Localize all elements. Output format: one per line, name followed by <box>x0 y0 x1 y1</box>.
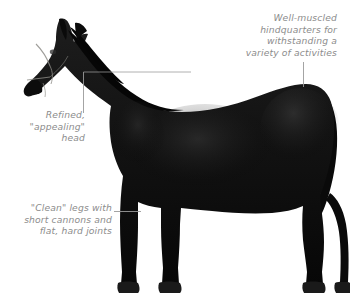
hindquarters-annotation-line-3: withstanding a <box>246 35 337 47</box>
legs-annotation: "Clean" legs with short cannons and flat… <box>24 202 112 237</box>
horse-rump-highlight <box>260 88 340 172</box>
horse-hoof-hind-off <box>334 282 350 294</box>
horse-eye <box>50 50 56 55</box>
legs-annotation-line-3: flat, hard joints <box>24 225 112 237</box>
hindquarters-annotation-line-2: hindquarters for <box>246 24 337 36</box>
horse-hoof-front-near <box>117 282 139 294</box>
legs-annotation-line-1: "Clean" legs with <box>24 202 112 214</box>
horse-shoulder-highlight <box>112 101 164 169</box>
horse-conformation-figure: Well-muscled hindquarters for withstandi… <box>0 0 350 307</box>
head-annotation-line-2: "appealing" <box>30 121 85 133</box>
head-annotation-line-3: head <box>30 132 85 144</box>
horse-hoof-front-off <box>158 282 181 294</box>
hindquarters-annotation-line-1: Well-muscled <box>246 12 337 24</box>
head-annotation: Refined, "appealing" head <box>30 109 85 144</box>
hindquarters-annotation: Well-muscled hindquarters for withstandi… <box>246 12 337 58</box>
horse-hoof-hind-near <box>302 282 325 294</box>
head-annotation-line-1: Refined, <box>30 109 85 121</box>
legs-annotation-line-2: short cannons and <box>24 214 112 226</box>
hindquarters-annotation-line-4: variety of activities <box>246 47 337 59</box>
